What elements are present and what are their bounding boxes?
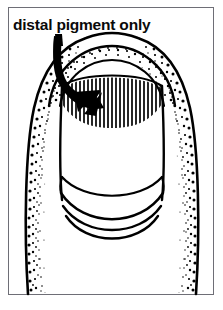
finger-outline bbox=[26, 33, 198, 294]
finger-stipple-left bbox=[27, 46, 79, 294]
free-edge-curves bbox=[60, 177, 163, 239]
nail-diagram-illustration bbox=[0, 0, 223, 310]
caption-distal-pigment-only: distal pigment only bbox=[13, 16, 150, 34]
figure-root: distal pigment only bbox=[0, 0, 223, 310]
finger-stipple-right bbox=[145, 46, 197, 294]
